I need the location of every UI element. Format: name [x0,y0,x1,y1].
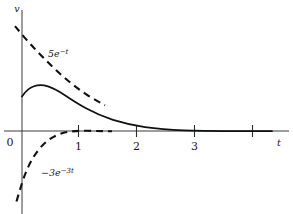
x-tick-label-1: 1 [75,140,82,153]
label-5e-minus-t: 5e−t [48,48,69,60]
y-axis-label: v [14,3,20,14]
label-5e-exponent: −t [60,48,69,56]
curve-v-solid [22,85,272,131]
curve-5e-minus-t [15,26,105,105]
exponential-decay-plot: 0 1 2 3 v t 5e−t −3e−3t [0,0,293,214]
chart-figure: 0 1 2 3 v t 5e−t −3e−3t [0,0,293,214]
label-3e-exponent: −3t [61,167,74,175]
label-3e-base: −3e [41,167,61,178]
label-minus-3e-minus-3t: −3e−3t [41,167,74,179]
x-axis-label: t [277,137,281,148]
x-tick-label-2: 2 [133,140,140,153]
x-tick-label-0: 0 [7,136,14,149]
axes-group [4,10,289,214]
label-5e-base: 5e [48,48,60,59]
x-tick-label-3: 3 [191,140,198,153]
